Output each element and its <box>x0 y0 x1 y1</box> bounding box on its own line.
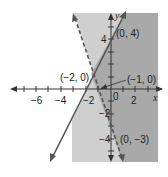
point-label-0-4: (0, 4) <box>116 28 139 39</box>
point-label-0-m3: (0, −3) <box>120 134 149 145</box>
x-tick-label-m4: −4 <box>55 95 67 106</box>
x-tick-label-2: 2 <box>131 95 137 106</box>
x-tick-label-m2: −2 <box>83 95 95 106</box>
x-axis-label: x <box>152 92 158 103</box>
y-tick-label-m4: −4 <box>99 134 111 145</box>
inequality-graph: −6 −4 −2 0 2 4 −2 −4 y x (0, 4) (−2, 0) … <box>0 0 168 177</box>
x-tick-label-m6: −6 <box>31 95 43 106</box>
point-label-m1-0: (−1, 0) <box>127 74 156 85</box>
y-tick-label-m2: −2 <box>99 108 111 119</box>
x-axis-left-arrow-icon <box>10 86 17 92</box>
y-axis-label: y <box>114 10 120 21</box>
point-label-m2-0: (−2, 0) <box>60 72 89 83</box>
y-tick-label-4: 4 <box>101 34 107 45</box>
origin-label: 0 <box>113 91 119 102</box>
